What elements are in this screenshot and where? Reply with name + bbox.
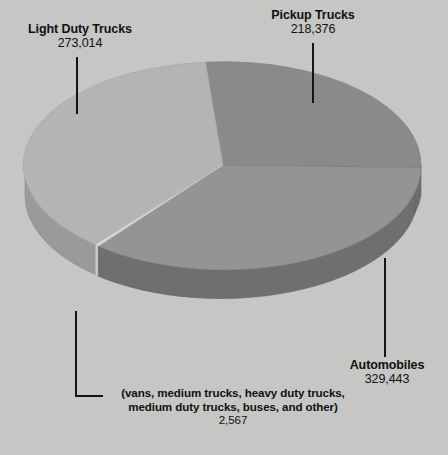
slice-label-light-duty-trucks-value: 273,014 (6, 36, 154, 50)
slice-label-pickup-trucks: Pickup Trucks 218,376 (238, 8, 388, 36)
slice-label-other-vehicles-line-2: medium duty trucks, buses, and other) (88, 400, 378, 414)
slice-label-light-duty-trucks: Light Duty Trucks 273,014 (6, 22, 154, 50)
slice-label-pickup-trucks-category: Pickup Trucks (238, 8, 388, 22)
slice-label-other-vehicles: (vans, medium trucks, heavy duty trucks,… (88, 386, 378, 426)
slice-label-other-vehicles-value: 2,567 (88, 413, 378, 426)
slice-label-light-duty-trucks-category: Light Duty Trucks (6, 22, 154, 36)
side-wall-other-vehicles (96, 245, 99, 277)
slice-label-automobiles-category: Automobiles (330, 358, 444, 372)
slice-label-other-vehicles-line-1: (vans, medium trucks, heavy duty trucks, (88, 386, 378, 400)
pie-chart-figure: Light Duty Trucks 273,014 Pickup Trucks … (0, 0, 448, 455)
slice-label-automobiles-value: 329,443 (330, 372, 444, 386)
slice-label-automobiles: Automobiles 329,443 (330, 358, 444, 386)
slice-label-pickup-trucks-value: 218,376 (238, 22, 388, 36)
leader-line-other-vehicles (76, 311, 103, 396)
pie-top-faces (23, 62, 421, 270)
